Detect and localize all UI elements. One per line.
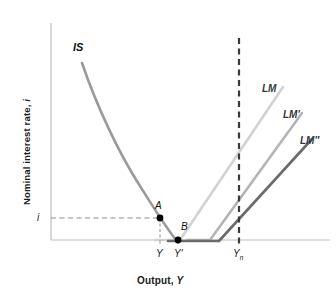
is-curve-label: IS — [73, 42, 83, 53]
x-axis-title: Output, Y — [137, 276, 183, 286]
point-b-marker — [175, 237, 182, 244]
lm-prime-curve — [187, 113, 302, 240]
x-tick-label-y-prime: Y' — [174, 249, 183, 259]
point-b-label: B — [181, 222, 188, 232]
lm-curve — [155, 87, 283, 240]
x-axis-title-text: Output, — [137, 275, 174, 286]
x-tick-label-yn-sub: n — [240, 254, 244, 261]
point-a-label: A — [155, 201, 162, 211]
is-lm-chart-figure: Nominal interest rate, i Output, Y IS LM… — [0, 0, 336, 300]
y-axis-title-text: Nominal interest rate, — [21, 105, 32, 205]
y-axis-title-variable: i — [21, 99, 32, 102]
lm-prime-curve-label: LM' — [283, 110, 300, 120]
x-axis-title-variable: Y — [177, 275, 184, 286]
y-axis-title: Nominal interest rate, i — [22, 99, 32, 205]
is-curve — [82, 63, 176, 240]
lm-double-prime-curve-label: LM″ — [300, 136, 319, 146]
x-tick-label-yn: Yn — [233, 249, 243, 262]
y-tick-label-i: i — [37, 213, 39, 223]
x-tick-label-y: Y — [156, 249, 163, 259]
lm-curve-label: LM — [262, 84, 276, 94]
x-tick-label-yn-base: Y — [233, 248, 240, 259]
point-a-marker — [157, 215, 164, 222]
chart-canvas — [0, 0, 336, 300]
